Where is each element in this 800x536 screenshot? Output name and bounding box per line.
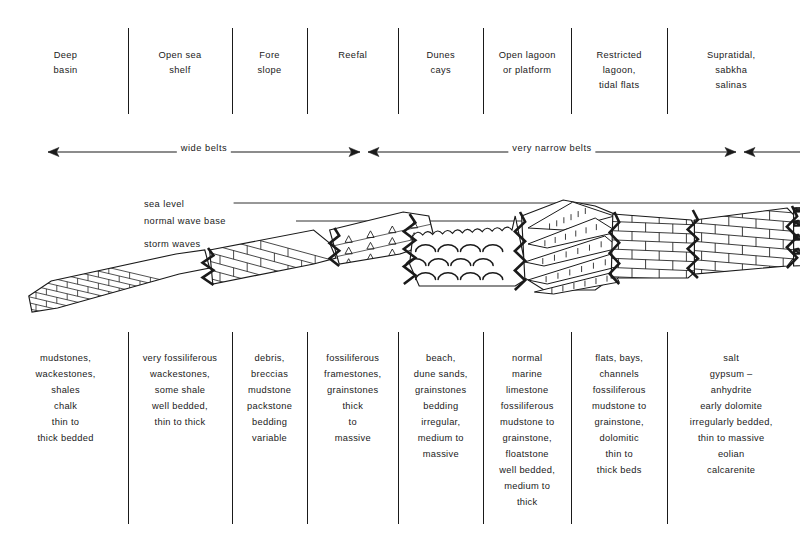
- datum-label-normal-wave-base: normal wave base: [144, 216, 226, 226]
- facies-description-line: grainstones: [415, 382, 466, 398]
- facies-belt-label-line: salinas: [715, 78, 746, 93]
- facies-description-line: debris,: [255, 350, 285, 366]
- facies-description-line: eolian: [718, 446, 745, 462]
- facies-description-line: bedding: [252, 414, 287, 430]
- facies-description-divider: [232, 332, 233, 524]
- facies-belt-dunes-cays: Dunescays: [398, 28, 483, 114]
- facies-belt-label-line: shelf: [169, 63, 190, 78]
- facies-description-line: floatstone: [506, 446, 549, 462]
- facies-belt-supratidal: Supratidal,sabkhasalinas: [667, 28, 795, 114]
- facies-description-reefal: fossiliferousframestones,grainstonesthic…: [307, 332, 398, 446]
- facies-description-line: breccias: [251, 366, 288, 382]
- breccia-clast-icon: [367, 265, 374, 272]
- datum-label-sea-level: sea level: [144, 199, 184, 209]
- facies-belt-label-line: Restricted: [597, 48, 642, 63]
- facies-description-line: beach,: [426, 350, 456, 366]
- facies-belt-label-line: basin: [54, 63, 78, 78]
- facies-description-line: calcarenite: [707, 462, 755, 478]
- facies-belt-label-line: cays: [431, 63, 452, 78]
- facies-description-line: irregular,: [421, 414, 460, 430]
- facies-description-line: limestone: [506, 382, 549, 398]
- facies-description-line: early dolomite: [700, 398, 762, 414]
- facies-belt-label-line: Open sea: [158, 48, 201, 63]
- facies-description-line: thin to: [605, 446, 632, 462]
- cross-section-svg: sea levelnormal wave basestorm waves: [0, 186, 800, 326]
- facies-description-line: thick beds: [597, 462, 642, 478]
- facies-header-divider: [571, 28, 572, 114]
- facies-belt-label-line: sabkha: [715, 63, 747, 78]
- facies-description-line: thin to: [52, 414, 79, 430]
- facies-description-line: thick: [517, 494, 538, 510]
- facies-description-line: wackestones,: [150, 366, 210, 382]
- facies-description-line: variable: [252, 430, 287, 446]
- facies-description-line: gypsum –: [710, 366, 753, 382]
- facies-header-divider: [307, 28, 308, 114]
- bed-line: [26, 290, 213, 334]
- facies-description-divider: [398, 332, 399, 524]
- facies-description-line: anhydrite: [711, 382, 752, 398]
- facies-description-line: grainstones: [327, 382, 378, 398]
- facies-description-line: mudstone to: [592, 398, 646, 414]
- facies-description-divider: [483, 332, 484, 524]
- facies-belt-label-line: Fore: [259, 48, 280, 63]
- facies-description-line: normal: [512, 350, 542, 366]
- bed-line: [206, 286, 339, 322]
- breccia-clast-icon: [345, 270, 352, 277]
- facies-description-line: thick bedded: [37, 430, 93, 446]
- facies-description-line: channels: [599, 366, 639, 382]
- facies-description-line: thin to massive: [698, 430, 765, 446]
- facies-description-line: massive: [423, 446, 459, 462]
- facies-header-divider: [398, 28, 399, 114]
- facies-description-line: dune sands,: [414, 366, 468, 382]
- facies-belt-label-line: or platform: [503, 63, 551, 78]
- facies-description-restricted-lagoon: flats, bays,channelsfossiliferousmudston…: [571, 332, 667, 478]
- facies-description-line: massive: [335, 430, 371, 446]
- facies-description-line: very fossiliferous: [143, 350, 218, 366]
- facies-belt-deep-basin: Deepbasin: [3, 28, 128, 114]
- facies-description-line: marine: [512, 366, 542, 382]
- facies-description-dunes-cays: beach,dune sands,grainstonesbeddingirreg…: [398, 332, 483, 462]
- belt-arrow-wide-belts-right: [744, 147, 800, 156]
- facies-description-line: medium to: [504, 478, 550, 494]
- facies-description-deep-basin: mudstones,wackestones,shaleschalkthin to…: [3, 332, 128, 446]
- facies-header-divider: [667, 28, 668, 114]
- facies-belt-fore-slope: Foreslope: [232, 28, 307, 114]
- facies-description-fore-slope: debris,brecciasmudstonepackstonebeddingv…: [232, 332, 307, 446]
- facies-description-line: grainstone,: [595, 414, 644, 430]
- facies-description-line: wackestones,: [36, 366, 96, 382]
- facies-description-line: chalk: [54, 398, 77, 414]
- facies-description-open-sea-shelf: very fossiliferouswackestones,some shale…: [128, 332, 232, 430]
- facies-belt-label-line: Supratidal,: [707, 48, 755, 63]
- facies-description-divider: [667, 332, 668, 524]
- facies-description-divider: [128, 332, 129, 524]
- bed-line: [688, 278, 800, 288]
- facies-header-divider: [483, 28, 484, 114]
- facies-belt-label-line: Dunes: [426, 48, 455, 63]
- datum-label-storm-waves: storm waves: [144, 239, 201, 249]
- facies-belt-open-lagoon: Open lagoonor platform: [483, 28, 571, 114]
- restricted-dolomite: [688, 204, 800, 296]
- facies-belt-header: DeepbasinOpen seashelfForeslopeReefalDun…: [0, 28, 800, 114]
- facies-description-line: thin to thick: [155, 414, 206, 430]
- breccia-clast-icon: [389, 261, 396, 268]
- facies-header-divider: [232, 28, 233, 114]
- belt-width-label-very-narrow-belts: very narrow belts: [508, 143, 595, 153]
- facies-description-line: fossiliferous: [593, 382, 646, 398]
- facies-belt-label-line: Open lagoon: [499, 48, 556, 63]
- facies-description-divider: [571, 332, 572, 524]
- facies-description-line: salt: [723, 350, 739, 366]
- facies-description-line: irregularly bedded,: [690, 414, 773, 430]
- facies-description-band: mudstones,wackestones,shaleschalkthin to…: [0, 332, 800, 524]
- facies-belt-open-sea-shelf: Open seashelf: [128, 28, 232, 114]
- cross-section-panel: sea levelnormal wave basestorm waves: [0, 186, 800, 326]
- facies-belt-label-line: slope: [258, 63, 282, 78]
- facies-belt-label-line: Deep: [54, 48, 78, 63]
- facies-description-line: medium to: [418, 430, 464, 446]
- facies-description-line: mudstones,: [40, 350, 91, 366]
- facies-belt-label-line: tidal flats: [599, 78, 640, 93]
- facies-header-divider: [128, 28, 129, 114]
- facies-description-line: fossiliferous: [501, 398, 554, 414]
- facies-belt-restricted-lagoon: Restrictedlagoon,tidal flats: [571, 28, 667, 114]
- carbonate-facies-diagram: DeepbasinOpen seashelfForeslopeReefalDun…: [0, 0, 800, 536]
- facies-description-supratidal: saltgypsum –anhydriteearly dolomiteirreg…: [667, 332, 795, 478]
